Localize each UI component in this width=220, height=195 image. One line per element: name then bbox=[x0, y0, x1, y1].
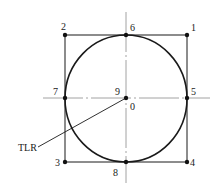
circle-in-square-diagram: 1 2 3 4 5 6 7 8 9 0 TLR bbox=[0, 0, 220, 195]
origin-label: 0 bbox=[130, 101, 135, 112]
point-8-label: 8 bbox=[113, 167, 118, 178]
point-7-marker bbox=[63, 96, 67, 100]
point-9-marker bbox=[124, 96, 128, 100]
point-9-label: 9 bbox=[115, 86, 120, 97]
point-1-marker bbox=[185, 33, 189, 37]
point-8-marker bbox=[124, 160, 128, 164]
point-5-label: 5 bbox=[191, 86, 196, 97]
point-6-label: 6 bbox=[130, 22, 135, 33]
point-6-marker bbox=[124, 33, 128, 37]
point-2-label: 2 bbox=[61, 21, 66, 32]
point-7-label: 7 bbox=[53, 86, 58, 97]
point-4-label: 4 bbox=[190, 157, 195, 168]
tlr-leader-line bbox=[38, 98, 126, 147]
point-3-marker bbox=[63, 160, 67, 164]
point-2-marker bbox=[63, 33, 67, 37]
point-1-label: 1 bbox=[191, 22, 196, 33]
tlr-label: TLR bbox=[18, 142, 37, 153]
point-5-marker bbox=[185, 96, 189, 100]
point-4-marker bbox=[185, 160, 189, 164]
point-3-label: 3 bbox=[55, 157, 60, 168]
